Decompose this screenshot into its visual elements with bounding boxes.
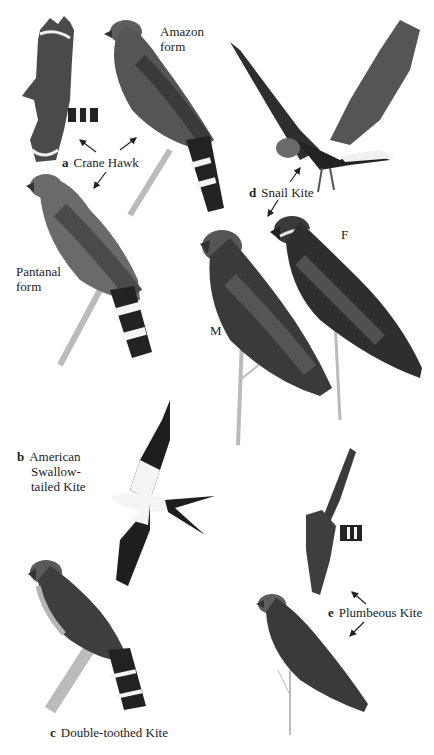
- crane-hawk-flight-illustration: [22, 16, 98, 162]
- amazon-form-label: Amazon form: [160, 24, 204, 54]
- plumbeous-kite-label: ePlumbeous Kite: [328, 605, 422, 620]
- swallow-tailed-kite-illustration: [112, 400, 215, 586]
- snail-kite-label: dSnail Kite: [249, 185, 314, 200]
- snail-kite-male-label: M: [210, 323, 222, 338]
- swallow-tailed-kite-label: bAmerican Swallow- tailed Kite: [17, 449, 86, 494]
- snail-kite-female-label: F: [341, 227, 348, 242]
- species-letter: d: [249, 185, 256, 200]
- species-letter: a: [62, 155, 69, 170]
- species-letter: b: [17, 449, 24, 464]
- double-toothed-kite-label: cDouble-toothed Kite: [50, 725, 168, 740]
- species-letter: c: [50, 725, 56, 740]
- pantanal-form-label: Pantanal form: [16, 264, 61, 294]
- snail-kite-flight-illustration: [230, 20, 420, 192]
- illustration-plate: Amazon form aCrane Hawk Pantanal form dS…: [0, 0, 434, 755]
- plumbeous-kite-flight-illustration: [306, 448, 362, 595]
- bird-illustrations: [0, 0, 434, 755]
- crane-hawk-label: aCrane Hawk: [62, 155, 139, 170]
- species-letter: e: [328, 605, 334, 620]
